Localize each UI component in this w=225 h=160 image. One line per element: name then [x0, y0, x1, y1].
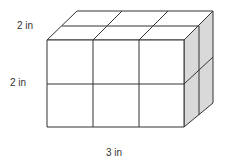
- depth-label: 2 in: [17, 21, 33, 31]
- cube-prism-diagram: [0, 0, 225, 160]
- width-label: 3 in: [106, 148, 122, 158]
- height-label: 2 in: [10, 78, 26, 88]
